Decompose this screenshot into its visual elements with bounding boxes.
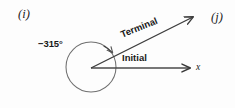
angle-measure-label: −315° (38, 39, 63, 49)
initial-side-label: Initial (122, 53, 147, 63)
angle-diagram-canvas (0, 0, 235, 108)
panel-tag-i: (i) (18, 8, 30, 21)
angle-diagram-figure: (i) (j) −315° Initial Terminal x (0, 0, 235, 108)
x-axis-label: x (196, 63, 200, 73)
panel-tag-j: (j) (211, 11, 223, 24)
